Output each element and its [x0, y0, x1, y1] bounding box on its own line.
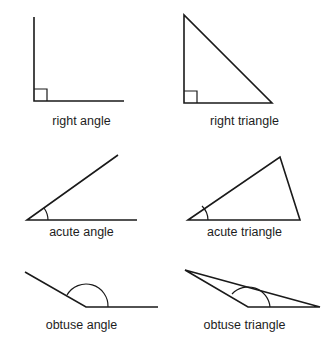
- caption-obtuse-triangle: obtuse triangle: [163, 318, 326, 332]
- obtuse-angle-arc-mark-icon: [67, 284, 108, 307]
- obtuse-triangle-outline: [185, 270, 320, 307]
- figure-obtuse-angle: [25, 272, 158, 307]
- figure-sheet: right angle right triangle acute angle a…: [0, 0, 326, 345]
- right-triangle-outline: [184, 15, 272, 103]
- acute-triangle-outline: [188, 157, 300, 220]
- caption-acute-triangle: acute triangle: [163, 225, 326, 239]
- right-angle-rays: [34, 17, 124, 101]
- right-angle-square-mark-icon: [34, 89, 47, 101]
- acute-angle-rays: [27, 155, 137, 220]
- acute-angle-arc-mark-icon: [44, 208, 48, 220]
- obtuse-triangle-arc-mark-icon: [232, 287, 270, 307]
- figure-right-angle: [34, 17, 124, 101]
- obtuse-angle-rays: [25, 272, 158, 307]
- figure-acute-angle: [27, 155, 137, 220]
- figure-obtuse-triangle: [185, 270, 320, 307]
- caption-right-angle: right angle: [0, 114, 163, 128]
- caption-right-triangle: right triangle: [163, 114, 326, 128]
- figure-acute-triangle: [188, 157, 300, 220]
- figure-right-triangle: [184, 15, 272, 103]
- acute-triangle-arc-mark-icon: [202, 206, 208, 220]
- right-triangle-square-mark-icon: [184, 91, 197, 103]
- caption-obtuse-angle: obtuse angle: [0, 318, 163, 332]
- geometry-drawing-canvas: [0, 0, 326, 345]
- caption-acute-angle: acute angle: [0, 225, 163, 239]
